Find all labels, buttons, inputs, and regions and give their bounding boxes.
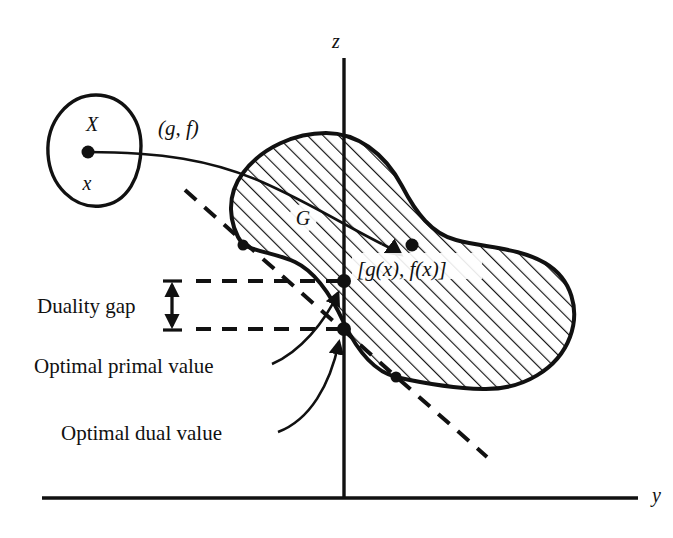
optimal-dual-point-marker: [337, 322, 351, 336]
optimal-dual-value-label: Optimal dual value: [61, 421, 222, 445]
x-point-label: x: [82, 172, 92, 194]
duality-gap-bracket: Duality gap: [37, 281, 182, 330]
image-point-marker: [406, 239, 419, 252]
upper-tangency-point-marker: [238, 240, 249, 251]
map-label: (g, f): [158, 116, 199, 140]
figure-canvas: z y G X x (g, f) [g(x), f(x)]: [0, 0, 673, 538]
lower-tangency-point-marker: [391, 372, 402, 383]
optimal-primal-point-marker: [337, 274, 351, 288]
duality-gap-figure: z y G X x (g, f) [g(x), f(x)]: [0, 0, 673, 538]
duality-gap-label: Duality gap: [37, 294, 136, 318]
z-axis-label: z: [331, 30, 340, 52]
image-point-label: [g(x), f(x)]: [357, 257, 447, 281]
set-G-label: G: [296, 207, 311, 229]
set-X-outline: [48, 95, 141, 206]
optimal-primal-value-label: Optimal primal value: [34, 354, 214, 378]
set-X: X x: [48, 95, 141, 206]
set-X-label: X: [85, 113, 99, 135]
y-axis-label: y: [650, 484, 661, 507]
